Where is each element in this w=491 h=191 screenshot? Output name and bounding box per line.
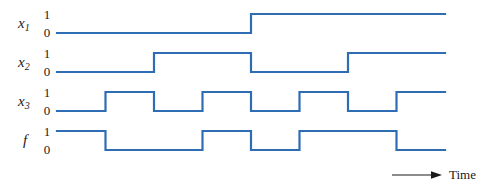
waveform-x3	[57, 92, 445, 111]
time-axis-label: Time	[449, 168, 476, 181]
waveform-x2	[57, 53, 445, 72]
timing-diagram-figure: x1 x2 x3 f 1 0 1 0 1 0 1 0 Time	[0, 0, 491, 191]
waveform-canvas	[0, 0, 491, 191]
right-arrow-icon	[392, 169, 444, 181]
waveform-x1	[57, 14, 445, 33]
waveform-f	[57, 131, 445, 150]
time-axis: Time	[392, 168, 476, 181]
